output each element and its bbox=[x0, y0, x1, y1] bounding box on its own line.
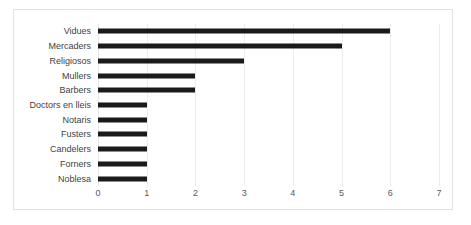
bar-row: Notaris bbox=[98, 112, 439, 127]
bar-category-label: Barbers bbox=[59, 86, 91, 95]
bar-category-label: Religiosos bbox=[49, 56, 91, 65]
x-tick-label: 4 bbox=[290, 189, 295, 198]
bar-category-label: Noblesa bbox=[58, 174, 91, 183]
bar-category-label: Mullers bbox=[62, 71, 91, 80]
bar-category-label: Doctors en lleis bbox=[29, 100, 91, 109]
bar-row: Noblesa bbox=[98, 171, 439, 186]
bar bbox=[98, 161, 147, 166]
bar-row: Vidues bbox=[98, 24, 439, 39]
bar bbox=[98, 132, 147, 137]
chart-frame: ViduesMercadersReligiososMullersBarbersD… bbox=[13, 9, 453, 210]
bar bbox=[98, 29, 390, 34]
bar-rows: ViduesMercadersReligiososMullersBarbersD… bbox=[98, 24, 439, 186]
bar-row: Mullers bbox=[98, 68, 439, 83]
bar-category-label: Forners bbox=[60, 159, 91, 168]
bar-category-label: Fusters bbox=[61, 130, 91, 139]
bar-category-label: Mercaders bbox=[48, 42, 91, 51]
bar bbox=[98, 58, 244, 63]
plot-area: ViduesMercadersReligiososMullersBarbersD… bbox=[98, 24, 439, 186]
bar-row: Forners bbox=[98, 157, 439, 172]
x-tick-label: 2 bbox=[193, 189, 198, 198]
gridline-x-7 bbox=[439, 24, 440, 186]
bar-row: Doctors en lleis bbox=[98, 98, 439, 113]
bar-row: Fusters bbox=[98, 127, 439, 142]
x-axis: 01234567 bbox=[98, 186, 439, 206]
bar-row: Barbers bbox=[98, 83, 439, 98]
bar-category-label: Notaris bbox=[62, 115, 91, 124]
x-tick-label: 3 bbox=[242, 189, 247, 198]
bar bbox=[98, 73, 195, 78]
x-tick-label: 7 bbox=[436, 189, 441, 198]
bar bbox=[98, 117, 147, 122]
bar-row: Religiosos bbox=[98, 53, 439, 68]
x-tick-label: 1 bbox=[144, 189, 149, 198]
x-tick-label: 6 bbox=[388, 189, 393, 198]
bar bbox=[98, 147, 147, 152]
bar bbox=[98, 88, 195, 93]
bar bbox=[98, 102, 147, 107]
bar-row: Candelers bbox=[98, 142, 439, 157]
x-tick-label: 5 bbox=[339, 189, 344, 198]
bar-row: Mercaders bbox=[98, 39, 439, 54]
bar-category-label: Candelers bbox=[50, 145, 91, 154]
bar-category-label: Vidues bbox=[64, 27, 91, 36]
bar bbox=[98, 176, 147, 181]
bar bbox=[98, 44, 342, 49]
x-tick-label: 0 bbox=[95, 189, 100, 198]
